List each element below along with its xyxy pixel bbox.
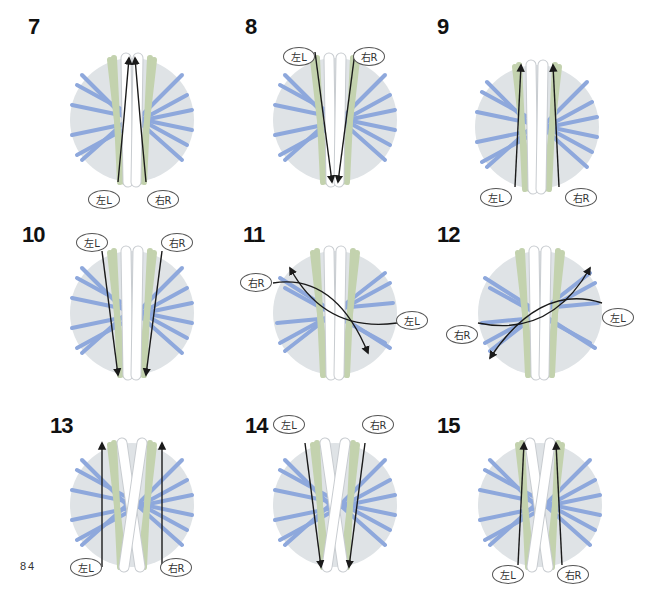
label-bubble-right: 右R: [446, 325, 478, 344]
white-strand: [126, 251, 128, 375]
white-strand: [541, 65, 543, 189]
step-number: 12: [437, 222, 459, 248]
step-15-diagram: [478, 443, 602, 567]
step-number: 7: [28, 14, 39, 40]
label-bubble-left: 左L: [76, 233, 108, 252]
step-number: 14: [245, 413, 267, 439]
step-14-diagram: [273, 443, 397, 567]
step-8-diagram: [273, 52, 397, 182]
white-strand: [531, 65, 533, 189]
label-bubble-right: 右R: [240, 273, 272, 292]
label-bubble-left: 左L: [602, 308, 634, 327]
step-13-diagram: [70, 443, 194, 567]
label-bubble-right: 右R: [160, 558, 192, 577]
label-bubble-left: 左L: [70, 558, 102, 577]
label-bubble-right: 右R: [147, 190, 179, 209]
label-bubble-left: 左L: [283, 47, 315, 66]
step-number: 15: [437, 413, 459, 439]
label-bubble-left: 左L: [273, 415, 305, 434]
step-12-diagram: [478, 251, 602, 375]
step-number: 9: [437, 14, 448, 40]
white-strand: [544, 251, 546, 375]
label-bubble-right: 右R: [161, 233, 193, 252]
white-strand: [534, 251, 536, 375]
label-bubble-left: 左L: [480, 188, 512, 207]
step-10-diagram: [70, 251, 194, 375]
label-bubble-left: 左L: [396, 311, 428, 330]
label-bubble-right: 右R: [557, 565, 589, 584]
label-bubble-left: 左L: [492, 565, 524, 584]
step-number: 11: [243, 222, 264, 248]
step-number: 13: [50, 413, 72, 439]
step-number: 8: [245, 14, 256, 40]
label-bubble-right: 右R: [362, 415, 394, 434]
white-strand: [339, 251, 341, 375]
label-bubble-left: 左L: [88, 190, 120, 209]
white-strand: [136, 251, 138, 375]
label-bubble-right: 右R: [565, 188, 597, 207]
step-9-diagram: [475, 65, 599, 189]
label-bubble-right: 右R: [353, 47, 385, 66]
step-number: 10: [22, 222, 44, 248]
step-11-diagram: [273, 251, 397, 375]
step-7-diagram: [70, 58, 194, 182]
braiding-diagram-canvas: [0, 0, 645, 612]
